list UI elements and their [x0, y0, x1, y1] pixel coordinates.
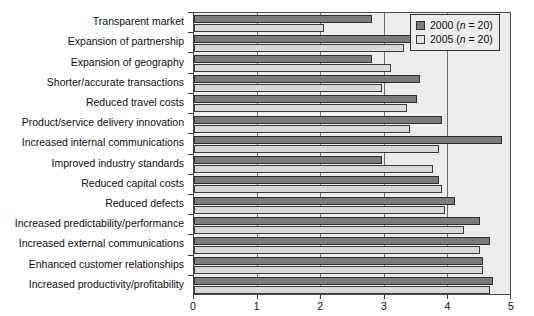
bar-2005	[194, 104, 407, 112]
x-tick-label: 5	[508, 300, 514, 312]
bar-2005	[194, 64, 391, 72]
category-label: Expansion of geography	[71, 57, 184, 68]
bar-2000	[194, 116, 442, 124]
bar-2005	[194, 84, 382, 92]
bar-2000	[194, 197, 455, 205]
x-tick-mark	[193, 295, 194, 299]
category-label: Increased internal communications	[22, 137, 184, 148]
plot-area	[193, 12, 511, 295]
category-label: Reduced defects	[105, 198, 184, 209]
bar-2005	[194, 286, 490, 294]
x-tick-mark	[320, 295, 321, 299]
bar-2005	[194, 145, 439, 153]
bar-2000	[194, 75, 420, 83]
y-tick	[188, 154, 193, 155]
y-tick	[188, 194, 193, 195]
y-tick	[188, 214, 193, 215]
bar-2005	[194, 226, 464, 234]
bar-2000	[194, 55, 372, 63]
bar-2000	[194, 257, 483, 265]
x-tick-label: 4	[444, 300, 450, 312]
x-tick-label: 2	[317, 300, 323, 312]
y-tick	[188, 255, 193, 256]
y-tick	[188, 174, 193, 175]
bar-2000	[194, 277, 493, 285]
bar-2000	[194, 176, 439, 184]
x-tick-label: 3	[381, 300, 387, 312]
x-axis: 012345	[193, 295, 511, 315]
category-label: Improved industry standards	[52, 158, 184, 169]
x-tick-mark	[447, 295, 448, 299]
bar-2005	[194, 165, 433, 173]
x-tick-label: 1	[254, 300, 260, 312]
category-label: Transparent market	[93, 16, 184, 27]
bar-2005	[194, 206, 445, 214]
y-tick	[188, 52, 193, 53]
category-labels: Transparent marketExpansion of partnersh…	[0, 12, 188, 295]
category-label: Increased productivity/profitability	[29, 279, 184, 290]
category-label: Increased external communications	[19, 238, 184, 249]
bar-2005	[194, 125, 410, 133]
category-label: Reduced capital costs	[81, 178, 184, 189]
bar-2000	[194, 217, 480, 225]
y-tick	[188, 234, 193, 235]
bar-2000	[194, 35, 442, 43]
y-tick	[188, 93, 193, 94]
y-tick	[188, 113, 193, 114]
chart-legend: 2000 (n = 20) 2005 (n = 20)	[410, 14, 500, 51]
y-tick	[188, 275, 193, 276]
category-label: Shorter/accurate transactions	[47, 77, 184, 88]
x-tick-label: 0	[190, 300, 196, 312]
y-tick	[188, 32, 193, 33]
bar-2005	[194, 246, 480, 254]
y-tick	[188, 133, 193, 134]
legend-label-2000: 2000 (n = 20)	[430, 19, 493, 31]
legend-item-2000: 2000 (n = 20)	[416, 18, 493, 32]
x-tick-mark	[384, 295, 385, 299]
bar-2000	[194, 237, 490, 245]
x-tick-mark	[510, 295, 511, 299]
legend-swatch-2000-icon	[416, 21, 425, 30]
legend-item-2005: 2005 (n = 20)	[416, 32, 493, 46]
x-tick-mark	[257, 295, 258, 299]
bar-2005	[194, 185, 442, 193]
bar-2005	[194, 266, 483, 274]
legend-swatch-2005-icon	[416, 35, 425, 44]
category-label: Increased predictability/performance	[15, 218, 184, 229]
category-label: Product/service delivery innovation	[22, 117, 184, 128]
legend-label-2005: 2005 (n = 20)	[430, 33, 493, 45]
bar-2000	[194, 15, 372, 23]
horizontal-bar-chart: Transparent marketExpansion of partnersh…	[0, 0, 534, 316]
bar-2000	[194, 156, 382, 164]
category-label: Enhanced customer relationships	[29, 259, 184, 270]
bar-2005	[194, 44, 404, 52]
bar-2005	[194, 24, 324, 32]
bar-2000	[194, 95, 417, 103]
bar-2000	[194, 136, 502, 144]
category-label: Reduced travel costs	[86, 97, 184, 108]
y-tick	[188, 73, 193, 74]
y-tick	[188, 12, 193, 13]
category-label: Expansion of partnership	[68, 36, 184, 47]
